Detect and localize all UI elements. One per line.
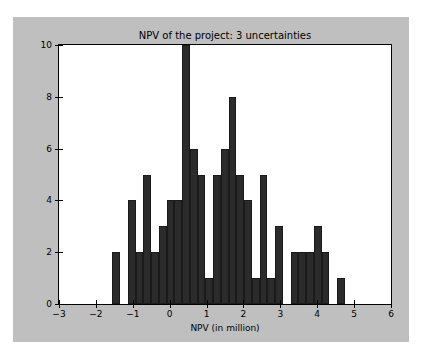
histogram-bar [306, 252, 314, 304]
y-tick-mark-inner [59, 97, 63, 98]
x-tick-label: 3 [277, 309, 283, 319]
histogram-bar [337, 278, 345, 304]
x-tick-label: 0 [167, 309, 173, 319]
x-tick-mark-inner [170, 300, 171, 304]
histogram-bar [229, 97, 237, 304]
histogram-bar [267, 278, 275, 304]
y-tick-mark-inner [59, 252, 63, 253]
y-tick-label: 2 [46, 247, 52, 257]
x-tick-mark [391, 304, 392, 308]
x-tick-mark-inner [96, 300, 97, 304]
histogram-bar [167, 200, 175, 304]
y-tick-mark-inner [59, 304, 63, 305]
x-tick-label: −1 [126, 309, 139, 319]
histogram-bar [260, 175, 268, 305]
y-tick-label: 4 [46, 195, 52, 205]
x-tick-mark-inner [280, 300, 281, 304]
x-tick-label: 2 [241, 309, 247, 319]
x-tick-mark [96, 304, 97, 308]
histogram-bar [151, 252, 159, 304]
x-tick-mark-inner [243, 300, 244, 304]
y-tick-label: 10 [41, 40, 52, 50]
x-tick-mark [170, 304, 171, 308]
y-tick-label: 0 [46, 299, 52, 309]
y-tick-mark-inner [59, 149, 63, 150]
y-tick-mark-inner [59, 45, 63, 46]
histogram-bar [136, 252, 144, 304]
histogram-bar [314, 226, 322, 304]
x-tick-mark-inner [354, 300, 355, 304]
histogram-bar [128, 200, 136, 304]
y-tick-mark-inner [59, 200, 63, 201]
histogram-bar [221, 149, 229, 304]
histogram-bar [244, 200, 252, 304]
x-tick-mark-inner [317, 300, 318, 304]
histogram-bar [252, 278, 260, 304]
y-tick-label: 8 [46, 92, 52, 102]
histogram-bar [182, 45, 190, 304]
x-tick-mark-inner [207, 300, 208, 304]
histogram-bar [236, 175, 244, 305]
x-tick-label: 1 [204, 309, 210, 319]
figure-canvas: NPV of the project: 3 uncertainties −3−2… [13, 17, 409, 342]
histogram-bar [298, 252, 306, 304]
histogram-bar [112, 252, 120, 304]
x-axis-label: NPV (in million) [190, 323, 259, 333]
x-tick-label: 4 [314, 309, 320, 319]
y-tick-label: 6 [46, 144, 52, 154]
histogram-bar [322, 252, 330, 304]
plot-area: NPV of the project: 3 uncertainties −3−2… [58, 44, 392, 305]
histogram-bar [213, 175, 221, 305]
histogram-bar [291, 252, 299, 304]
histogram-bar [275, 226, 283, 304]
histogram-bar [198, 175, 206, 305]
x-tick-mark [133, 304, 134, 308]
x-tick-mark-inner [391, 300, 392, 304]
x-tick-mark [243, 304, 244, 308]
x-tick-label: 6 [388, 309, 394, 319]
histogram-bar [143, 175, 151, 305]
x-tick-mark [207, 304, 208, 308]
histogram-bar [190, 149, 198, 304]
histogram-bars [59, 45, 391, 304]
x-tick-mark [280, 304, 281, 308]
x-tick-label: 5 [351, 309, 357, 319]
x-tick-mark-inner [133, 300, 134, 304]
x-tick-label: −3 [52, 309, 65, 319]
histogram-bar [159, 226, 167, 304]
histogram-bar [174, 200, 182, 304]
chart-title: NPV of the project: 3 uncertainties [139, 30, 311, 41]
x-tick-label: −2 [89, 309, 102, 319]
x-tick-mark [317, 304, 318, 308]
x-tick-mark [354, 304, 355, 308]
